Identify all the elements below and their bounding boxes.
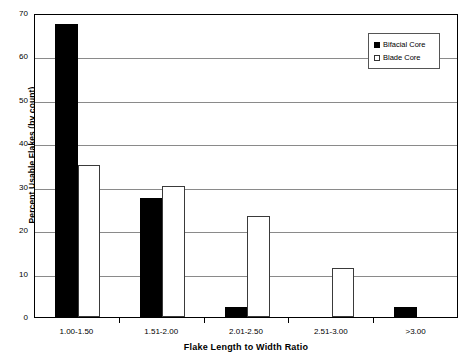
x-axis-title: Flake Length to Width Ratio	[34, 342, 458, 352]
gridline	[35, 102, 457, 103]
x-tick-mark	[373, 318, 374, 323]
legend-swatch-icon	[374, 42, 380, 48]
bar-201250-bifacial-core	[225, 307, 248, 317]
legend-item-bifacial-core: Bifacial Core	[374, 38, 435, 51]
legend-item-label: Blade Core	[383, 54, 421, 62]
bar-151200-bifacial-core	[140, 198, 163, 317]
legend-item-blade-core: Blade Core	[374, 51, 435, 64]
x-tick-mark	[204, 318, 205, 323]
bar-151200-blade-core	[162, 186, 185, 317]
y-tick-label: 70	[4, 10, 28, 18]
y-tick-label: 20	[4, 227, 28, 235]
y-tick-label: 60	[4, 53, 28, 61]
x-tick-mark	[119, 318, 120, 323]
chart-legend: Bifacial CoreBlade Core	[368, 33, 440, 69]
legend-item-label: Bifacial Core	[383, 41, 426, 49]
y-tick-label: 30	[4, 184, 28, 192]
y-tick-label: 40	[4, 140, 28, 148]
x-tick-label: 2.01-2.50	[201, 327, 291, 336]
gridline	[35, 145, 457, 146]
x-tick-label: 2.51-3.00	[286, 327, 376, 336]
x-tick-label: 1.51-2.00	[116, 327, 206, 336]
bar-chart-figure: Percent Usable Flakes (by count) 0102030…	[0, 0, 469, 358]
legend-swatch-icon	[374, 55, 380, 61]
bar-251300-blade-core	[332, 268, 355, 317]
x-tick-label: >3.00	[371, 327, 461, 336]
bar-100150-blade-core	[78, 165, 101, 317]
y-tick-label: 0	[4, 314, 28, 322]
y-tick-label: 10	[4, 271, 28, 279]
bar-100150-bifacial-core	[55, 24, 78, 317]
x-tick-label: 1.00-1.50	[31, 327, 121, 336]
x-tick-mark	[288, 318, 289, 323]
bar-300-bifacial-core	[394, 307, 417, 317]
y-tick-label: 50	[4, 97, 28, 105]
bar-201250-blade-core	[247, 216, 270, 317]
